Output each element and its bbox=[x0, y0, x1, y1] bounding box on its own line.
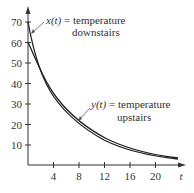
svg-text:4: 4 bbox=[51, 170, 57, 182]
annotation-x-sublabel: downstairs bbox=[72, 26, 120, 38]
svg-text:10: 10 bbox=[11, 139, 23, 151]
svg-text:20: 20 bbox=[150, 170, 162, 182]
annotation-arrowhead-x bbox=[31, 29, 35, 34]
x-tick-labels: 4 8 12 16 20 bbox=[51, 170, 162, 182]
svg-text:60: 60 bbox=[11, 37, 23, 49]
svg-text:70: 70 bbox=[11, 16, 23, 28]
svg-text:50: 50 bbox=[11, 57, 23, 69]
y-axis-arrow bbox=[26, 6, 31, 14]
y-tick-labels: 10 20 30 40 50 60 70 bbox=[11, 16, 23, 151]
svg-text:8: 8 bbox=[76, 170, 82, 182]
svg-text:16: 16 bbox=[125, 170, 137, 182]
x-axis-arrow bbox=[178, 163, 186, 168]
chart: 10 20 30 40 50 60 70 4 8 12 16 20 t x(t)… bbox=[0, 0, 194, 193]
annotation-y-label: y(t) = temperature bbox=[90, 98, 171, 111]
x-axis-label: t bbox=[179, 170, 183, 182]
curve-x-downstairs bbox=[28, 22, 178, 159]
svg-text:12: 12 bbox=[99, 170, 110, 182]
annotation-arrowhead-y bbox=[78, 116, 82, 121]
svg-text:40: 40 bbox=[11, 78, 23, 90]
svg-text:30: 30 bbox=[11, 98, 23, 110]
svg-text:20: 20 bbox=[11, 119, 23, 131]
annotation-y-sublabel: upstairs bbox=[117, 111, 151, 123]
